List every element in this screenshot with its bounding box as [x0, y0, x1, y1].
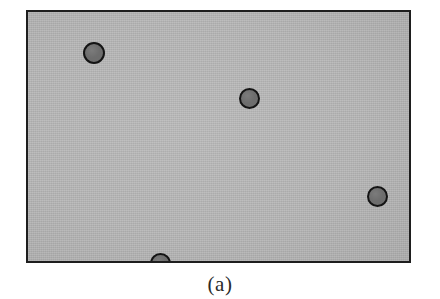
marker-highlight	[369, 188, 386, 205]
figure-caption: (a)	[0, 272, 440, 296]
marker-highlight	[85, 44, 103, 62]
marker-bottom-edge	[150, 253, 171, 263]
figure-container: (a)	[0, 0, 440, 299]
marker-center	[239, 88, 260, 109]
domain-rectangle	[26, 10, 411, 263]
marker-right	[367, 186, 388, 207]
marker-highlight	[241, 90, 258, 107]
marker-highlight	[152, 255, 169, 263]
marker-top-left	[83, 42, 105, 64]
